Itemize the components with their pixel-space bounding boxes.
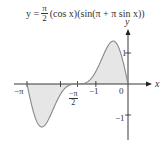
y-tick-label-1: 1 xyxy=(122,48,127,58)
x-tick-label-neg-1: −1 xyxy=(89,86,99,96)
y-axis-arrow-icon xyxy=(126,29,131,35)
x-tick-label-0: 0 xyxy=(119,86,124,96)
tick-fraction-denominator: 2 xyxy=(71,99,75,107)
x-tick-label-neg-pi: −π xyxy=(14,86,24,96)
plot-area: x y xyxy=(0,0,162,149)
y-tick-label-neg-1: −1 xyxy=(115,113,125,123)
tick-fraction: −π 2 xyxy=(69,90,78,107)
y-axis-label: y xyxy=(124,16,130,27)
x-axis-label: x xyxy=(154,78,160,89)
x-axis-arrow-icon xyxy=(146,82,152,87)
x-tick-label-neg-pi-over-2: −π 2 xyxy=(69,88,78,107)
